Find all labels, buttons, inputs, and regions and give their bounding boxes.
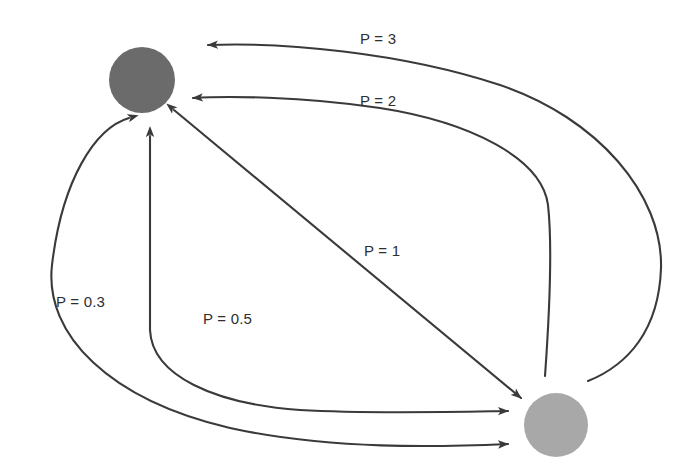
diagram-canvas: P = 3 P = 2 P = 1 P = 0.5 P = 0.3 <box>0 0 686 469</box>
edge-label-p03: P = 0.3 <box>56 293 105 310</box>
edge-p1-path <box>174 110 521 398</box>
top-left-node[interactable] <box>109 47 175 113</box>
edge-label-p1: P = 1 <box>364 242 400 259</box>
edge-p3-path <box>208 44 661 381</box>
edge-p05-path <box>150 136 508 412</box>
bottom-right-node[interactable] <box>524 393 588 457</box>
edge-p2-path <box>193 97 550 376</box>
edge-p03-path <box>51 118 508 446</box>
edge-label-p2: P = 2 <box>360 92 396 109</box>
diagram-svg <box>0 0 686 469</box>
edge-label-p05: P = 0.5 <box>203 310 252 327</box>
edge-label-p3: P = 3 <box>360 30 396 47</box>
